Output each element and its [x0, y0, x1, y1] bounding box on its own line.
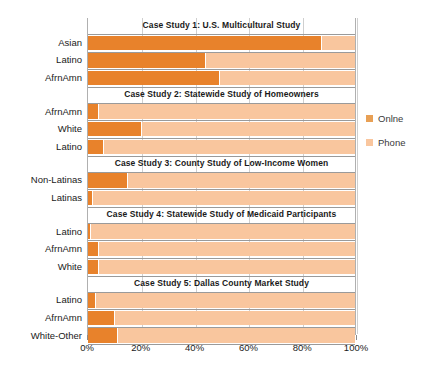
- row-divider: [88, 52, 355, 53]
- bar-segment-online: [88, 328, 118, 343]
- bar-segment-phone: [97, 104, 355, 119]
- bar-segment-phone: [126, 173, 355, 188]
- panel-title: Case Study 5: Dallas County Market Study: [88, 278, 355, 288]
- row-divider: [88, 156, 355, 157]
- bar-segment-phone: [204, 53, 355, 68]
- stacked-bar-chart: AsianLatinoAfrnAmnAfrnAmnWhiteLatinoNon-…: [0, 0, 428, 372]
- chart-legend: OnlnePhone: [366, 113, 426, 161]
- bar-segment-phone: [320, 36, 355, 51]
- x-axis-tick: [356, 335, 357, 340]
- bar-row: [88, 224, 355, 239]
- bar-segment-phone: [140, 122, 355, 137]
- panel-title: Case Study 3: County Study of Low-Income…: [88, 158, 355, 168]
- row-divider: [88, 309, 355, 310]
- bar-segment-online: [88, 173, 128, 188]
- bar-segment-phone: [91, 191, 355, 206]
- row-divider: [88, 327, 355, 328]
- bar-row: [88, 260, 355, 275]
- bar-row: [88, 36, 355, 51]
- bar-segment-online: [88, 311, 115, 326]
- bar-segment-online: [88, 140, 104, 155]
- bar-segment-phone: [97, 260, 355, 275]
- category-label: AfrnAmn: [0, 107, 82, 117]
- bar-segment-online: [88, 53, 206, 68]
- panel-divider: [88, 34, 355, 35]
- bar-segment-online: [88, 224, 91, 239]
- category-label: Latinas: [0, 193, 82, 203]
- bar-segment-phone: [218, 71, 355, 86]
- row-divider: [88, 258, 355, 259]
- bar-row: [88, 328, 355, 343]
- row-divider: [88, 120, 355, 121]
- row-divider: [88, 276, 355, 277]
- row-divider: [88, 207, 355, 208]
- bar-row: [88, 173, 355, 188]
- category-label: Latino: [0, 55, 82, 65]
- bar-segment-online: [88, 71, 220, 86]
- row-divider: [88, 344, 355, 345]
- row-divider: [88, 189, 355, 190]
- bar-segment-online: [88, 242, 99, 257]
- bar-segment-phone: [102, 140, 355, 155]
- row-divider: [88, 138, 355, 139]
- bar-segment-online: [88, 122, 142, 137]
- bar-segment-phone: [97, 242, 355, 257]
- category-label: White: [0, 262, 82, 272]
- bar-row: [88, 71, 355, 86]
- row-divider: [88, 69, 355, 70]
- category-label: Latino: [0, 227, 82, 237]
- bar-segment-phone: [94, 293, 355, 308]
- bar-segment-online: [88, 260, 99, 275]
- panel-divider: [88, 292, 355, 293]
- bar-row: [88, 140, 355, 155]
- bar-row: [88, 311, 355, 326]
- bar-segment-online: [88, 104, 99, 119]
- bar-row: [88, 53, 355, 68]
- panel-divider: [88, 223, 355, 224]
- category-label: Latino: [0, 295, 82, 305]
- gridline: [357, 18, 358, 334]
- legend-label: Onlne: [378, 113, 403, 124]
- panel-title: Case Study 4: Statewide Study of Medicai…: [88, 209, 355, 219]
- bar-segment-phone: [116, 328, 355, 343]
- legend-item[interactable]: Onlne: [366, 113, 426, 124]
- category-label: Asian: [0, 38, 82, 48]
- category-label: AfrnAmn: [0, 244, 82, 254]
- legend-swatch-icon: [366, 115, 373, 122]
- bar-row: [88, 191, 355, 206]
- row-divider: [88, 87, 355, 88]
- legend-item[interactable]: Phone: [366, 137, 426, 148]
- category-label: White: [0, 124, 82, 134]
- bar-segment-online: [88, 36, 322, 51]
- bar-row: [88, 293, 355, 308]
- panel-divider: [88, 103, 355, 104]
- legend-swatch-icon: [366, 139, 373, 146]
- category-label: Latino: [0, 142, 82, 152]
- legend-label: Phone: [378, 137, 405, 148]
- category-label: AfrnAmn: [0, 313, 82, 323]
- panel-title: Case Study 1: U.S. Multicultural Study: [88, 20, 355, 30]
- category-label: Non-Latinas: [0, 175, 82, 185]
- plot-area: Case Study 1: U.S. Multicultural StudyCa…: [87, 18, 356, 335]
- bar-segment-online: [88, 293, 96, 308]
- bar-row: [88, 122, 355, 137]
- panel-divider: [88, 172, 355, 173]
- category-label: AfrnAmn: [0, 73, 82, 83]
- bar-row: [88, 104, 355, 119]
- bar-segment-phone: [113, 311, 355, 326]
- bar-row: [88, 242, 355, 257]
- category-axis-labels: AsianLatinoAfrnAmnAfrnAmnWhiteLatinoNon-…: [0, 18, 83, 335]
- category-label: White-Other: [0, 331, 82, 341]
- panel-title: Case Study 2: Statewide Study of Homeown…: [88, 89, 355, 99]
- bar-segment-online: [88, 191, 93, 206]
- bar-segment-phone: [89, 224, 355, 239]
- row-divider: [88, 240, 355, 241]
